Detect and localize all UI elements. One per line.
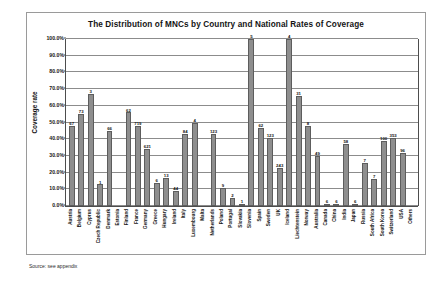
bar-value-label: 4 (193, 119, 195, 123)
bar[interactable]: 6 (333, 204, 339, 206)
y-axis-tick-label: 0.0% (52, 202, 64, 208)
category-slot: Russia (359, 208, 368, 262)
bar[interactable]: 62 (126, 112, 132, 206)
bar-value-label: 2 (231, 194, 233, 198)
bar-slot: 8 (303, 39, 312, 206)
bar-slot: 621 (143, 39, 152, 206)
category-slot: UK (274, 208, 283, 262)
bar[interactable]: 66 (107, 131, 113, 206)
bar-slot: 62 (256, 39, 265, 206)
bar-slot: 6 (351, 39, 360, 206)
bar-slot: 123 (266, 39, 275, 206)
bar[interactable]: 9 (220, 188, 226, 206)
x-axis-tick-label: Switzerland (390, 209, 395, 235)
bar[interactable]: 5 (248, 39, 254, 206)
bar[interactable]: 719 (135, 126, 141, 206)
bar-value-label: 123 (267, 134, 274, 138)
bar[interactable]: 96 (400, 153, 406, 206)
bar[interactable]: 13 (163, 178, 169, 206)
bar[interactable]: 7 (362, 163, 368, 206)
category-slot: Belgium (75, 208, 84, 262)
x-axis-tick-label: Austria (68, 209, 73, 225)
category-slot: Germany (142, 208, 151, 262)
bar[interactable]: 44 (173, 191, 179, 206)
bar[interactable]: 123 (211, 134, 217, 206)
bar-value-label: 84 (183, 130, 188, 134)
x-axis-tick-label: Japan (352, 209, 357, 222)
bar[interactable]: 353 (390, 138, 396, 206)
category-slot: Czech Republic (94, 208, 103, 262)
category-slot: Australia (312, 208, 321, 262)
bar[interactable]: 2 (230, 198, 236, 206)
x-axis-tick-label: Norway (305, 209, 310, 226)
bar[interactable]: 7 (371, 179, 377, 206)
bar-value-label: 31 (296, 92, 301, 96)
bar-slot: 84 (180, 39, 189, 206)
bar[interactable]: 1 (239, 204, 245, 206)
bar-value-label: 58 (343, 140, 348, 144)
bar[interactable]: 1 (97, 184, 103, 206)
category-slot: Portugal (227, 208, 236, 262)
bar-slot: 96 (398, 39, 407, 206)
x-axis-tick-label: Others (409, 209, 414, 224)
bar[interactable]: 621 (144, 149, 150, 206)
category-slot: Slovenia (246, 208, 255, 262)
bar[interactable]: 67 (69, 126, 75, 206)
category-slot: Iceland (283, 208, 292, 262)
x-axis-tick-label: Sweden (267, 209, 272, 226)
x-axis-tick-label: Hungary (163, 209, 168, 228)
bar-value-label: 62 (258, 124, 263, 128)
bar[interactable]: 84 (182, 134, 188, 206)
bar[interactable]: 3 (88, 94, 94, 206)
bar[interactable]: 6 (352, 204, 358, 206)
x-axis-tick-label: Malta (201, 209, 206, 221)
bar-value-label: 100 (380, 137, 387, 141)
bar[interactable]: 62 (258, 128, 264, 206)
bar-slot: 31 (294, 39, 303, 206)
x-axis-tick-label: Netherlands (210, 209, 215, 236)
bar[interactable]: 100 (381, 141, 387, 206)
bar[interactable]: 4 (286, 39, 292, 206)
bar[interactable]: 243 (277, 168, 283, 206)
x-axis-tick-label: Ireland (172, 209, 177, 224)
category-slot: Hungary (161, 208, 170, 262)
x-axis-tick-label: Finland (125, 209, 130, 225)
bar-value-label: 719 (134, 122, 141, 126)
bar[interactable]: 123 (267, 138, 273, 206)
x-axis-tick-label: South Korea (380, 209, 385, 236)
bar-slot: 100 (379, 39, 388, 206)
bar-value-label: 67 (69, 122, 74, 126)
bar[interactable]: 58 (343, 144, 349, 206)
source-note: Source: see appendix (29, 263, 77, 269)
y-axis-tick-label: 60.0% (49, 102, 64, 108)
y-axis-tick-label: 90.0% (49, 52, 64, 58)
chart-title: The Distribution of MNCs by Country and … (27, 20, 425, 29)
bar[interactable]: 73 (78, 114, 84, 206)
category-slot: Finland (123, 208, 132, 262)
category-slot: France (132, 208, 141, 262)
bar[interactable]: 4 (192, 123, 198, 207)
bar[interactable]: 8 (305, 126, 311, 206)
category-slot: Ireland (170, 208, 179, 262)
bar[interactable]: 6 (154, 183, 160, 206)
bar-slot: 73 (76, 39, 85, 206)
bar[interactable]: 49 (315, 156, 321, 206)
bar-slot: 58 (341, 39, 350, 206)
x-axis-tick-label: Russia (361, 209, 366, 224)
x-axis-tick-label: India (343, 209, 348, 220)
bar-value-label: 8 (307, 122, 309, 126)
bar-slot: 1 (237, 39, 246, 206)
category-slot: Greece (151, 208, 160, 262)
bar-value-label: 44 (173, 187, 178, 191)
category-slot: Others (406, 208, 415, 262)
bar-slot: 6 (152, 39, 161, 206)
bar-slot: 44 (171, 39, 180, 206)
x-axis-tick-label: USA (399, 209, 404, 219)
bar-slot: 62 (124, 39, 133, 206)
category-slot: India (340, 208, 349, 262)
x-axis-tick-label: UK (276, 209, 281, 216)
bar-slot: 13 (162, 39, 171, 206)
bar[interactable]: 6 (324, 204, 330, 206)
bar[interactable]: 31 (296, 96, 302, 206)
y-axis-tick-label: 70.0% (49, 85, 64, 91)
